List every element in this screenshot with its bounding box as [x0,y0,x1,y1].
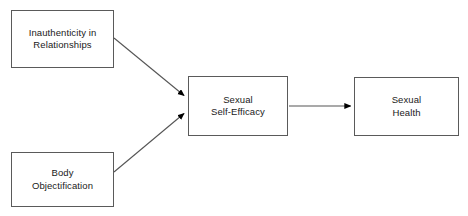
node-label: Inauthenticity in Relationships [26,27,100,52]
node-sexual-health: Sexual Health [354,77,459,136]
edge-objectification-to-self-efficacy [114,114,184,173]
node-sexual-self-efficacy: Sexual Self-Efficacy [188,76,288,136]
node-label: Sexual Self-Efficacy [208,94,268,119]
diagram-canvas: Inauthenticity in Relationships Body Obj… [0,0,468,216]
node-label: Body Objectification [29,167,96,192]
edge-inauthenticity-to-self-efficacy [114,38,184,96]
node-label: Sexual Health [389,94,425,119]
node-inauthenticity-in-relationships: Inauthenticity in Relationships [11,10,114,68]
node-body-objectification: Body Objectification [11,152,114,207]
